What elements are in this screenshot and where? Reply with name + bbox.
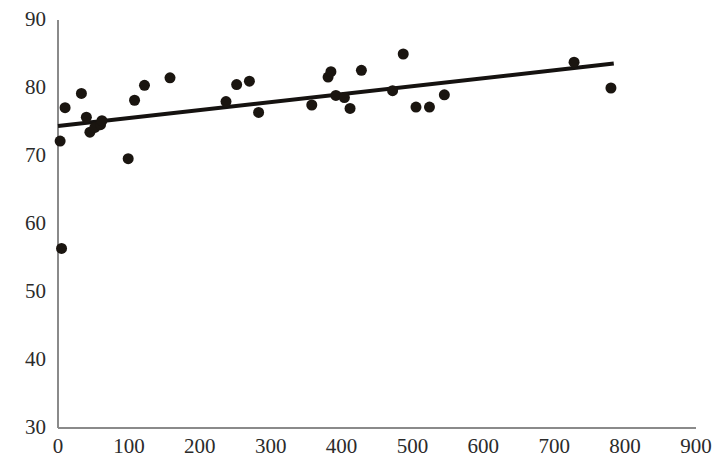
data-point (605, 83, 616, 94)
x-tick-label: 100 (99, 436, 159, 457)
x-tick-label: 500 (382, 436, 442, 457)
data-point (244, 76, 255, 87)
data-points (55, 49, 617, 254)
data-point (221, 96, 232, 107)
x-tick-label: 200 (170, 436, 230, 457)
x-tick-label: 800 (595, 436, 655, 457)
data-point (56, 243, 67, 254)
data-point (60, 102, 71, 113)
y-tick-label: 40 (6, 349, 46, 370)
data-point (123, 153, 134, 164)
x-tick-label: 600 (453, 436, 513, 457)
y-tick-label: 70 (6, 145, 46, 166)
y-tick-label: 90 (6, 9, 46, 30)
data-point (81, 112, 92, 123)
data-point (139, 80, 150, 91)
x-tick-label: 700 (524, 436, 584, 457)
data-point (345, 103, 356, 114)
data-point (129, 95, 140, 106)
data-point (231, 79, 242, 90)
y-tick-label: 30 (6, 417, 46, 438)
data-point (325, 66, 336, 77)
axes (58, 20, 696, 428)
x-tick-label: 400 (312, 436, 372, 457)
data-point (356, 65, 367, 76)
data-point (306, 100, 317, 111)
y-tick-label: 80 (6, 77, 46, 98)
scatter-chart: 30405060708090 0100200300400500600700800… (0, 0, 728, 474)
x-tick-label: 0 (28, 436, 88, 457)
data-point (387, 85, 398, 96)
plot-area (0, 0, 728, 474)
data-point (55, 136, 66, 147)
data-point (96, 115, 107, 126)
data-point (76, 88, 87, 99)
data-point (439, 89, 450, 100)
y-tick-label: 60 (6, 213, 46, 234)
x-tick-label: 900 (666, 436, 726, 457)
data-point (410, 102, 421, 113)
data-point (253, 107, 264, 118)
data-point (424, 102, 435, 113)
data-point (569, 57, 580, 68)
x-tick-label: 300 (241, 436, 301, 457)
data-point (398, 49, 409, 60)
data-point (165, 72, 176, 83)
y-tick-label: 50 (6, 281, 46, 302)
data-point (339, 92, 350, 103)
